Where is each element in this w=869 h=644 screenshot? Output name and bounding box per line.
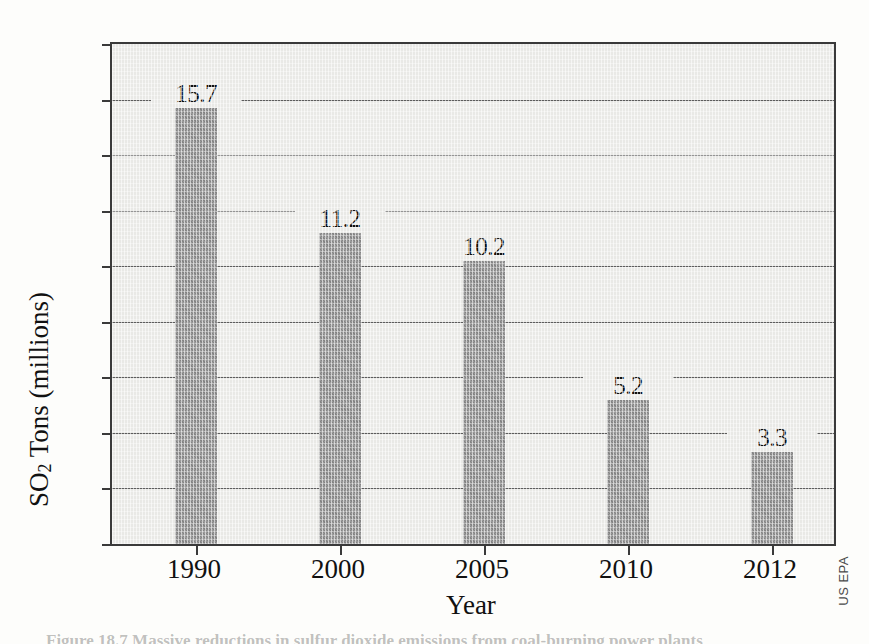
value-label-2000: 11.2 <box>295 206 385 231</box>
caption-fragment: Figure 18.7 Massive reductions in sulfur… <box>46 631 846 644</box>
x-tick-mark-2005 <box>484 544 486 555</box>
bar-1990 <box>175 108 217 544</box>
x-tick-label-2012: 2012 <box>705 556 835 583</box>
y-tick-mark-4 <box>102 433 112 435</box>
y-tick-mark-8 <box>102 322 112 324</box>
y-tick-mark-6 <box>102 377 112 379</box>
value-label-2005: 10.2 <box>439 234 529 259</box>
value-label-2012: 3.3 <box>727 425 817 450</box>
bar-2010 <box>607 400 649 544</box>
so2-emissions-bar-chart-figure: SO2 Tons (millions) 0 2 4 6 8 10 12 14 1… <box>0 0 869 644</box>
x-axis-title: Year <box>110 590 832 621</box>
y-tick-mark-18 <box>102 44 112 46</box>
value-label-2010: 5.2 <box>583 373 673 398</box>
y-tick-mark-0 <box>102 544 112 546</box>
x-tick-mark-2010 <box>628 544 630 555</box>
value-label-1990: 15.7 <box>151 81 241 106</box>
gridline-12 <box>112 211 834 212</box>
y-axis-title-suffix: Tons (millions) <box>24 292 54 464</box>
x-tick-mark-2012 <box>772 544 774 555</box>
plot-area: 0 2 4 6 8 10 12 14 16 18 15.7 11.2 10.2 … <box>110 42 836 546</box>
x-tick-mark-2000 <box>340 544 342 555</box>
bar-2012 <box>751 452 793 544</box>
y-tick-mark-10 <box>102 266 112 268</box>
bar-2000 <box>319 233 361 544</box>
y-tick-mark-12 <box>102 211 112 213</box>
y-axis-title-prefix: SO <box>24 473 54 508</box>
y-tick-mark-16 <box>102 100 112 102</box>
x-tick-label-1990: 1990 <box>129 556 259 583</box>
gridline-14 <box>112 155 834 156</box>
source-credit-label: US EPA <box>836 556 851 606</box>
y-axis-title: SO2 Tons (millions) <box>24 292 57 507</box>
x-tick-label-2010: 2010 <box>561 556 691 583</box>
y-tick-mark-14 <box>102 155 112 157</box>
x-tick-label-2005: 2005 <box>417 556 547 583</box>
x-tick-mark-1990 <box>196 544 198 555</box>
bar-2005 <box>463 261 505 544</box>
y-axis-title-subscript: 2 <box>35 464 55 473</box>
x-tick-label-2000: 2000 <box>273 556 403 583</box>
y-tick-mark-2 <box>102 488 112 490</box>
